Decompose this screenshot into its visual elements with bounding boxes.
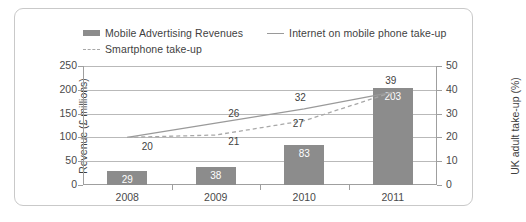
- line-point-label: 39: [378, 75, 404, 86]
- dashed-line-swatch-icon: [83, 49, 100, 50]
- y-axis-left-tick-mark: [78, 185, 83, 186]
- y-axis-right-tick-mark: [437, 90, 442, 91]
- y-axis-right-tick-label: 50: [446, 59, 468, 71]
- y-axis-right-tick-mark: [437, 161, 442, 162]
- line-path: [127, 92, 393, 137]
- legend-label-mobile-advertising-revenues: Mobile Advertising Revenues: [105, 27, 243, 39]
- legend-item-smartphone-take-up: Smartphone take-up: [83, 43, 202, 55]
- y-axis-left-tick-label: 0: [47, 178, 77, 190]
- bar-swatch-icon: [83, 30, 100, 36]
- plot-area: 293883203 202632392127: [83, 66, 437, 185]
- y-axis-right-tick-mark: [437, 137, 442, 138]
- y-axis-left-tick-label: 250: [47, 59, 77, 71]
- y-axis-left-tick-label: 50: [47, 154, 77, 166]
- solid-line-swatch-icon: [267, 33, 284, 34]
- x-axis-tick-mark: [172, 185, 173, 190]
- line-point-label: 32: [287, 92, 313, 103]
- y-axis-right-tick-mark: [437, 114, 442, 115]
- x-axis-tick-mark: [260, 185, 261, 190]
- line-point-label: 27: [285, 118, 311, 129]
- y-axis-left-tick-label: 100: [47, 130, 77, 142]
- y-axis-right-tick-label: 0: [446, 178, 468, 190]
- x-axis-tick-label: 2008: [97, 191, 157, 203]
- y-axis-right-tick-label: 20: [446, 130, 468, 142]
- line-point-label: 20: [134, 141, 160, 152]
- legend-item-mobile-advertising-revenues: Mobile Advertising Revenues: [83, 27, 243, 39]
- y-axis-right-tick-mark: [437, 66, 442, 67]
- y-axis-left-tick-label: 150: [47, 107, 77, 119]
- x-axis-tick-label: 2009: [186, 191, 246, 203]
- legend-item-internet-on-mobile-phone-take-up: Internet on mobile phone take-up: [267, 27, 446, 39]
- legend-row-first: Mobile Advertising Revenues Internet on …: [83, 27, 470, 39]
- x-axis-tick-label: 2010: [274, 191, 334, 203]
- x-axis-tick-mark: [349, 185, 350, 190]
- line-point-label: 26: [221, 108, 247, 119]
- y-axis-right-tick-mark: [437, 185, 442, 186]
- line-point-label: 21: [221, 136, 247, 147]
- legend-label-internet-on-mobile-phone-take-up: Internet on mobile phone take-up: [289, 27, 446, 39]
- y-axis-left-tick-label: 200: [47, 83, 77, 95]
- x-axis-tick-label: 2011: [363, 191, 423, 203]
- legend-label-smartphone-take-up: Smartphone take-up: [105, 43, 202, 55]
- y-axis-right-title: UK adult take-up (%): [466, 66, 526, 185]
- y-axis-right-tick-label: 40: [446, 83, 468, 95]
- y-axis-right-tick-label: 10: [446, 154, 468, 166]
- legend-row-second: Smartphone take-up: [83, 43, 226, 55]
- chart-frame: Mobile Advertising Revenues Internet on …: [14, 8, 473, 206]
- y-axis-right-tick-label: 30: [446, 107, 468, 119]
